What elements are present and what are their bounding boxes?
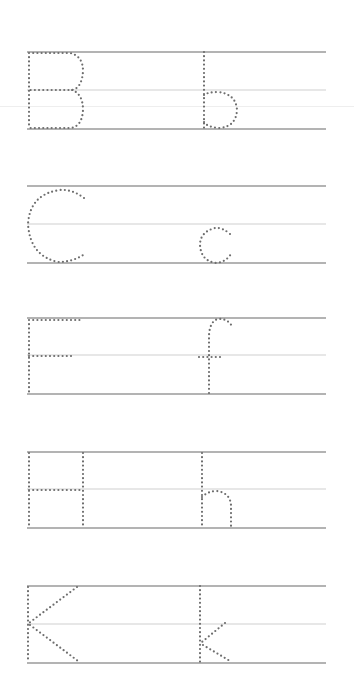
letter-lowercase-h [202,453,231,527]
letter-lowercase-c [200,228,231,263]
row-H [27,452,326,528]
letter-lowercase-f [199,319,233,393]
letter-uppercase-H [29,453,83,527]
row-K [27,586,326,663]
row-C [27,186,326,263]
letter-uppercase-F [29,320,82,393]
tracing-worksheet: .top, .bot { stroke: #9a9a9a; stroke-wid… [0,0,354,690]
row-F [27,318,326,394]
letter-uppercase-C [28,190,86,262]
row-B [27,52,326,129]
